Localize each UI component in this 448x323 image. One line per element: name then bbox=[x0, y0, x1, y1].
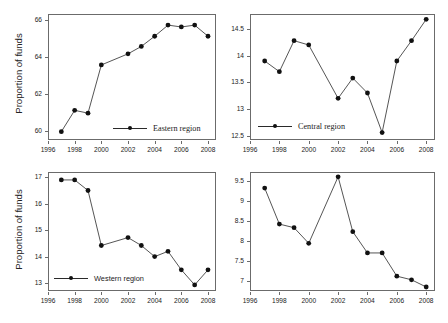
x-tick-mark bbox=[367, 292, 368, 295]
x-tick-label: 1996 bbox=[236, 146, 264, 153]
x-tick-label: 2000 bbox=[295, 297, 323, 304]
y-tick-mark bbox=[247, 29, 250, 30]
x-tick-label: 2006 bbox=[383, 297, 411, 304]
y-tick-mark bbox=[247, 56, 250, 57]
y-tick-mark bbox=[247, 241, 250, 242]
y-tick-mark bbox=[247, 261, 250, 262]
data-point-marker bbox=[350, 76, 355, 81]
x-tick-mark bbox=[338, 292, 339, 295]
x-tick-mark bbox=[426, 292, 427, 295]
data-point-marker bbox=[59, 178, 64, 183]
y-tick-label: 9 bbox=[218, 197, 244, 204]
y-tick-label: 8.5 bbox=[218, 217, 244, 224]
x-tick-mark bbox=[128, 141, 129, 144]
x-tick-label: 2008 bbox=[412, 146, 440, 153]
x-tick-mark bbox=[128, 292, 129, 295]
x-tick-mark bbox=[101, 292, 102, 295]
data-point-marker bbox=[192, 283, 197, 288]
series-line-eastern bbox=[0, 0, 224, 162]
x-tick-label: 1996 bbox=[236, 297, 264, 304]
x-tick-mark bbox=[48, 141, 49, 144]
x-tick-label: 2008 bbox=[194, 146, 222, 153]
data-point-marker bbox=[424, 285, 429, 290]
x-tick-mark bbox=[155, 141, 156, 144]
data-point-marker bbox=[409, 277, 414, 282]
x-tick-mark bbox=[181, 141, 182, 144]
data-point-marker bbox=[139, 243, 144, 248]
data-point-marker bbox=[262, 59, 267, 64]
legend-eastern-region: Eastern region bbox=[113, 124, 201, 133]
x-tick-mark bbox=[181, 292, 182, 295]
x-tick-label: 2004 bbox=[141, 297, 169, 304]
x-tick-mark bbox=[208, 141, 209, 144]
data-point-marker bbox=[99, 63, 104, 68]
data-point-marker bbox=[206, 267, 211, 272]
x-tick-label: 1996 bbox=[34, 297, 62, 304]
data-point-marker bbox=[394, 274, 399, 279]
y-tick-label: 13.5 bbox=[218, 78, 244, 85]
y-tick-label: 7 bbox=[218, 277, 244, 284]
y-tick-mark bbox=[247, 221, 250, 222]
x-tick-mark bbox=[367, 141, 368, 144]
data-point-marker bbox=[86, 111, 91, 116]
y-tick-label: 60 bbox=[16, 127, 42, 134]
data-point-marker bbox=[126, 235, 131, 240]
data-point-marker bbox=[380, 251, 385, 256]
x-tick-label: 2002 bbox=[114, 146, 142, 153]
x-tick-label: 2004 bbox=[353, 297, 381, 304]
data-point-marker bbox=[139, 44, 144, 49]
x-tick-label: 1998 bbox=[265, 146, 293, 153]
x-tick-label: 2002 bbox=[324, 146, 352, 153]
x-tick-mark bbox=[250, 292, 251, 295]
data-point-marker bbox=[152, 254, 157, 259]
x-tick-mark bbox=[426, 141, 427, 144]
x-tick-label: 2002 bbox=[324, 297, 352, 304]
y-tick-label: 14 bbox=[16, 253, 42, 260]
data-line bbox=[265, 177, 427, 287]
panel-western-region: Proportion of funds 1314151617 199619982… bbox=[0, 162, 224, 323]
y-tick-mark bbox=[45, 230, 48, 231]
data-point-marker bbox=[365, 251, 370, 256]
x-tick-label: 1996 bbox=[34, 146, 62, 153]
x-tick-mark bbox=[309, 141, 310, 144]
y-tick-mark bbox=[247, 181, 250, 182]
data-point-marker bbox=[72, 108, 77, 113]
legend-marker-icon bbox=[69, 276, 73, 280]
y-tick-label: 64 bbox=[16, 53, 42, 60]
x-tick-label: 2000 bbox=[87, 146, 115, 153]
data-point-marker bbox=[59, 129, 64, 134]
y-tick-label: 7.5 bbox=[218, 257, 244, 264]
data-point-marker bbox=[380, 130, 385, 135]
legend-line-icon bbox=[258, 126, 292, 127]
data-point-marker bbox=[166, 249, 171, 254]
x-tick-mark bbox=[397, 141, 398, 144]
x-tick-mark bbox=[250, 141, 251, 144]
data-point-marker bbox=[192, 23, 197, 28]
y-tick-mark bbox=[45, 283, 48, 284]
series-line-central bbox=[224, 0, 448, 162]
data-point-marker bbox=[277, 69, 282, 74]
data-point-marker bbox=[262, 186, 267, 191]
legend-central-region: Central region bbox=[258, 122, 345, 131]
data-point-marker bbox=[179, 25, 184, 30]
x-tick-mark bbox=[101, 141, 102, 144]
legend-line-icon bbox=[54, 278, 88, 279]
y-tick-label: 62 bbox=[16, 90, 42, 97]
x-tick-mark bbox=[48, 292, 49, 295]
x-tick-mark bbox=[155, 292, 156, 295]
data-point-marker bbox=[424, 17, 429, 22]
x-tick-label: 2006 bbox=[167, 146, 195, 153]
data-point-marker bbox=[99, 243, 104, 248]
y-tick-mark bbox=[45, 57, 48, 58]
legend-label: Western region bbox=[94, 274, 144, 283]
x-tick-label: 2004 bbox=[353, 146, 381, 153]
x-tick-mark bbox=[208, 292, 209, 295]
y-tick-mark bbox=[247, 201, 250, 202]
x-tick-label: 1998 bbox=[61, 146, 89, 153]
y-tick-label: 17 bbox=[16, 173, 42, 180]
data-point-marker bbox=[409, 38, 414, 43]
data-point-marker bbox=[306, 43, 311, 48]
y-tick-mark bbox=[247, 109, 250, 110]
x-tick-mark bbox=[75, 141, 76, 144]
legend-marker-icon bbox=[128, 126, 132, 130]
